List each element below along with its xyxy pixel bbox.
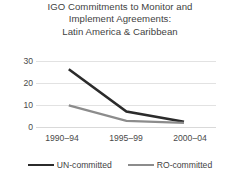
chart-container: IGO Commitments to Monitor and Implement… xyxy=(0,0,240,178)
gridline-0 xyxy=(36,127,216,128)
x-axis: 1990–94 1995–99 2000–04 xyxy=(36,133,216,145)
series-line-ro-committed xyxy=(69,105,184,123)
chart-title-line-3: Latin America & Caribbean xyxy=(0,26,240,38)
series-lines xyxy=(36,61,216,127)
y-axis-tick-30: 30 xyxy=(5,57,33,66)
legend-swatch-icon-un-committed xyxy=(28,164,54,166)
x-axis-tick-1990-94: 1990–94 xyxy=(32,133,92,143)
legend-label-ro-committed: RO-committed xyxy=(157,160,212,170)
chart-title-line-2: Implement Agreements: xyxy=(0,13,240,25)
legend-item-un-committed[interactable]: UN-committed xyxy=(28,160,112,170)
legend-swatch-icon-ro-committed xyxy=(128,164,154,166)
plot-area xyxy=(36,61,216,127)
series-line-un-committed xyxy=(69,69,184,122)
x-axis-tick-2000-04: 2000–04 xyxy=(160,133,220,143)
chart-title: IGO Commitments to Monitor and Implement… xyxy=(0,1,240,38)
y-axis: 30 20 10 0 xyxy=(0,61,33,127)
legend-label-un-committed: UN-committed xyxy=(57,160,112,170)
x-axis-tick-1995-99: 1995–99 xyxy=(96,133,156,143)
chart-title-line-1: IGO Commitments to Monitor and xyxy=(0,1,240,13)
y-axis-tick-0: 0 xyxy=(5,123,33,132)
legend-item-ro-committed[interactable]: RO-committed xyxy=(128,160,212,170)
chart-legend: UN-committed RO-committed xyxy=(0,158,240,172)
y-axis-tick-20: 20 xyxy=(5,79,33,88)
y-axis-tick-10: 10 xyxy=(5,101,33,110)
